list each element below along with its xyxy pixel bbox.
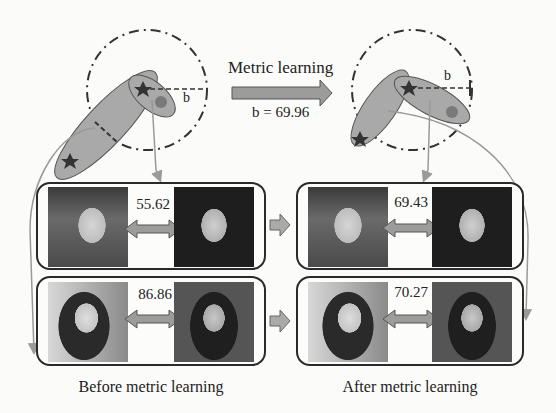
face-image — [174, 187, 254, 267]
face-image — [432, 282, 512, 362]
dot-icon — [446, 106, 458, 118]
face-image — [308, 187, 388, 267]
radius-label-before: b — [183, 90, 190, 106]
threshold-value: b = 69.96 — [252, 104, 309, 121]
pair-box-after-2: 70.27 — [296, 276, 524, 366]
transition-arrow-bottom — [270, 310, 290, 332]
face-image — [48, 187, 128, 267]
pair-box-after-1: 69.43 — [296, 182, 524, 270]
radius-label-after: b — [444, 68, 451, 84]
face-image — [432, 187, 512, 267]
face-image — [174, 282, 254, 362]
embedding-after — [341, 30, 528, 318]
caption-before: Before metric learning — [36, 378, 266, 396]
caption-after: After metric learning — [296, 378, 524, 396]
pair-box-before-1: 55.62 — [36, 182, 266, 270]
pair-box-before-2: 86.86 — [36, 276, 266, 366]
face-image — [48, 282, 128, 362]
metric-learning-label: Metric learning — [228, 58, 333, 78]
face-image — [308, 282, 388, 362]
dot-icon — [155, 96, 167, 108]
transition-arrow-top — [270, 214, 290, 236]
metric-learning-arrow — [232, 80, 332, 106]
